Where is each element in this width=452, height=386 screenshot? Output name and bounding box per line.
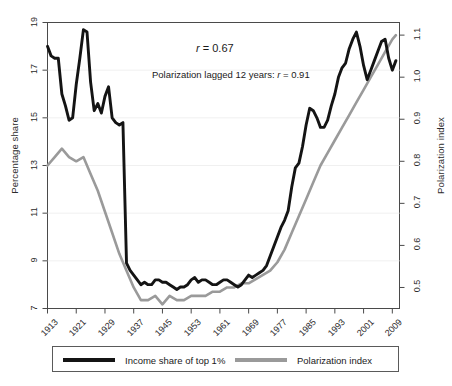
legend-entry[interactable]: Income share of top 1% [63, 347, 225, 373]
chart-legend: Income share of top 1%Polarization index [52, 346, 399, 372]
right-axis-title: Polarization index [435, 106, 446, 206]
annotation-lagged-value: = 0.91 [280, 69, 309, 80]
bottom-axis-ticks [48, 309, 393, 314]
annotation-correlation: r = 0.67 [196, 42, 234, 54]
right-axis-tick-label: 0.9 [412, 106, 422, 130]
right-axis-tick-label: 1.0 [412, 64, 422, 88]
left-axis-tick-label: 17 [29, 58, 39, 80]
right-axis-tick-label: 0.6 [412, 232, 422, 256]
legend-label: Income share of top 1% [125, 355, 225, 366]
left-axis-tick-label: 15 [29, 106, 39, 128]
right-axis-tick-label: 1.1 [412, 22, 422, 46]
left-axis-tick-label: 7 [29, 297, 39, 319]
annotation-lagged-prefix: Polarization lagged 12 years: [152, 69, 277, 80]
left-axis-title: Percentage share [9, 106, 20, 206]
legend-swatch [63, 358, 115, 361]
right-axis-tick-label: 0.5 [412, 274, 422, 298]
left-axis-tick-label: 9 [29, 249, 39, 271]
legend-swatch [235, 358, 287, 361]
right-axis-tick-label: 0.7 [412, 190, 422, 214]
legend-label: Polarization index [297, 355, 372, 366]
left-axis-tick-label: 11 [29, 201, 39, 223]
left-axis-tick-label: 19 [29, 11, 39, 33]
legend-entry[interactable]: Polarization index [235, 347, 372, 373]
annotation-correlation-value: = 0.67 [200, 42, 234, 54]
chart-figure: Percentage share Polarization index 7911… [0, 0, 452, 386]
right-axis-tick-label: 0.8 [412, 148, 422, 172]
annotation-lagged-correlation: Polarization lagged 12 years: r = 0.91 [152, 69, 310, 80]
right-axis-ticks [400, 35, 405, 287]
left-axis-tick-label: 13 [29, 154, 39, 176]
